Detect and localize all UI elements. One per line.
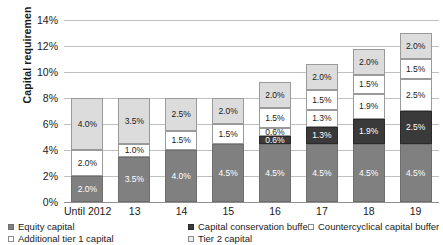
x-axis-tick-label: 15 <box>205 206 252 217</box>
legend-item-label: Equity capital <box>18 222 75 232</box>
bar-segment[interactable]: 3.5% <box>118 98 150 144</box>
legend-item[interactable]: Countercyclical capital buffer <box>308 222 439 232</box>
bar-segment-value-label: 2.0% <box>312 73 331 81</box>
bar-segment[interactable]: 1.0% <box>118 144 150 157</box>
y-axis-tick-label: 2% <box>28 171 58 181</box>
bar-segment[interactable]: 1.5% <box>165 131 197 151</box>
bar-segment[interactable]: 4.0% <box>165 150 197 202</box>
legend-item[interactable]: Equity capital <box>8 222 75 232</box>
bar-segment[interactable]: 1.5% <box>306 90 338 110</box>
bar-segment[interactable]: 4.5% <box>259 144 291 203</box>
legend-swatch-icon <box>188 224 194 230</box>
bar-segment-value-label: 3.5% <box>125 117 144 125</box>
y-axis-tick-label: 0% <box>28 197 58 207</box>
bar-segment-value-label: 2.5% <box>406 123 425 131</box>
bar-segment-value-label: 1.5% <box>265 114 284 122</box>
bar-segment[interactable]: 1.5% <box>259 108 291 128</box>
bar-segment-value-label: 4.5% <box>312 169 331 177</box>
bar-segment[interactable]: 2.5% <box>400 79 432 112</box>
bar-segment-value-label: 0.6% <box>265 128 284 136</box>
bar-segment[interactable]: 1.5% <box>400 59 432 79</box>
bar-segment[interactable]: 4.5% <box>353 144 385 203</box>
bar-segment-value-label: 4.5% <box>406 169 425 177</box>
legend-item[interactable]: Tier 2 capital <box>188 234 252 244</box>
legend-item[interactable]: Capital conservation buffer <box>188 222 311 232</box>
bar-segment-value-label: 1.5% <box>406 65 425 73</box>
bar-column[interactable]: 2.0%1.5%1.3%1.3%4.5% <box>306 20 338 202</box>
bar-segment-value-label: 2.5% <box>406 91 425 99</box>
bar-column[interactable]: 2.0%1.5%2.5%2.5%4.5% <box>400 20 432 202</box>
bar-segment[interactable]: 2.0% <box>306 64 338 90</box>
y-axis-tick-label: 14% <box>28 15 58 25</box>
bar-segment-value-label: 2.0% <box>265 91 284 99</box>
bar-segment-value-label: 1.5% <box>312 96 331 104</box>
bar-group: 4.0%2.0%2.0%3.5%1.0%3.5%2.5%1.5%4.0%2.0%… <box>64 20 439 202</box>
bar-segment[interactable]: 4.5% <box>212 144 244 203</box>
bar-segment[interactable]: 2.0% <box>400 33 432 59</box>
bar-segment-value-label: 2.0% <box>78 159 97 167</box>
bar-column[interactable]: 2.0%1.5%4.5% <box>212 20 244 202</box>
bar-segment-value-label: 2.0% <box>78 185 97 193</box>
bar-segment-value-label: 4.0% <box>78 120 97 128</box>
bar-segment[interactable]: 2.0% <box>353 49 385 75</box>
bar-segment-value-label: 4.5% <box>265 169 284 177</box>
bar-segment-value-label: 2.0% <box>218 107 237 115</box>
bar-segment-value-label: 4.5% <box>359 169 378 177</box>
bar-segment[interactable]: 3.5% <box>118 157 150 203</box>
bar-column[interactable]: 2.0%1.5%1.9%1.9%4.5% <box>353 20 385 202</box>
bar-segment[interactable]: 0.6% <box>259 128 291 136</box>
legend-item-label: Additional tier 1 capital <box>18 234 114 244</box>
x-axis-tick-label: 13 <box>111 206 158 217</box>
bar-segment[interactable]: 4.5% <box>400 144 432 203</box>
bar-segment[interactable]: 2.0% <box>71 176 103 202</box>
bar-segment-value-label: 0.6% <box>265 136 284 144</box>
bar-segment[interactable]: 4.0% <box>71 98 103 150</box>
bar-segment[interactable]: 1.5% <box>353 75 385 95</box>
bar-segment-value-label: 4.0% <box>172 172 191 180</box>
legend-item-label: Capital conservation buffer <box>198 222 311 232</box>
bar-segment[interactable]: 4.5% <box>306 144 338 203</box>
x-axis-tick-label: 19 <box>392 206 439 217</box>
x-axis-tick-label: Until 2012 <box>64 206 111 217</box>
bar-segment-value-label: 4.5% <box>218 169 237 177</box>
bar-segment-value-label: 1.5% <box>359 80 378 88</box>
bar-segment-value-label: 2.5% <box>172 110 191 118</box>
legend-swatch-icon <box>308 224 314 230</box>
bar-segment[interactable]: 2.5% <box>400 111 432 144</box>
legend-item-label: Countercyclical capital buffer <box>318 222 439 232</box>
legend-item[interactable]: Additional tier 1 capital <box>8 234 114 244</box>
y-axis-tick-label: 4% <box>28 145 58 155</box>
x-axis-tick-label: 18 <box>345 206 392 217</box>
x-axis-ticks: Until 201213141516171819 <box>64 203 439 219</box>
bar-column[interactable]: 3.5%1.0%3.5% <box>118 20 150 202</box>
bar-segment-value-label: 1.3% <box>312 114 331 122</box>
bar-segment-value-label: 2.0% <box>406 42 425 50</box>
bar-segment[interactable]: 1.5% <box>212 124 244 144</box>
bar-column[interactable]: 2.5%1.5%4.0% <box>165 20 197 202</box>
stacked-bar-chart: Capital requiremen 14%12%10%8%6%4%2%0% 4… <box>0 0 443 245</box>
bar-segment[interactable]: 1.9% <box>353 94 385 119</box>
bar-segment-value-label: 1.3% <box>312 131 331 139</box>
bar-segment[interactable]: 2.0% <box>212 98 244 124</box>
bar-segment[interactable]: 2.5% <box>165 98 197 131</box>
y-axis-tick-label: 12% <box>28 41 58 51</box>
bar-segment[interactable]: 0.6% <box>259 136 291 144</box>
bar-segment[interactable]: 1.3% <box>306 127 338 144</box>
chart-legend: Equity capitalCapital conservation buffe… <box>8 222 440 244</box>
plot-area: 4.0%2.0%2.0%3.5%1.0%3.5%2.5%1.5%4.0%2.0%… <box>64 20 439 202</box>
bar-column[interactable]: 4.0%2.0%2.0% <box>71 20 103 202</box>
y-axis-tick-label: 10% <box>28 67 58 77</box>
x-axis-tick-label: 14 <box>158 206 205 217</box>
bar-segment[interactable]: 1.3% <box>306 110 338 127</box>
x-axis-tick-label: 16 <box>252 206 299 217</box>
y-axis-tick-label: 6% <box>28 119 58 129</box>
bar-segment[interactable]: 1.9% <box>353 119 385 144</box>
y-axis-tick-label: 8% <box>28 93 58 103</box>
x-axis-tick-label: 17 <box>299 206 346 217</box>
bar-segment[interactable]: 2.0% <box>71 150 103 176</box>
bar-column[interactable]: 2.0%1.5%0.6%0.6%4.5% <box>259 20 291 202</box>
bar-segment-value-label: 1.0% <box>125 146 144 154</box>
bar-segment[interactable]: 2.0% <box>259 82 291 108</box>
y-axis-ticks: 14%12%10%8%6%4%2%0% <box>28 20 60 202</box>
legend-item-label: Tier 2 capital <box>198 234 252 244</box>
